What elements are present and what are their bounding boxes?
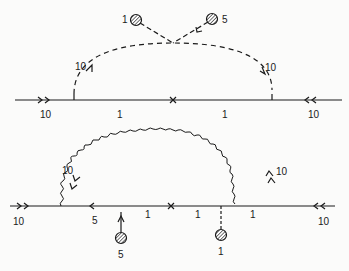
wavy-gauge-arc <box>60 128 235 206</box>
blob-5-icon <box>116 233 127 244</box>
blob-left-label: 1 <box>122 14 128 25</box>
blob-1-icon <box>131 15 142 26</box>
internal-left-label: 1 <box>117 109 123 120</box>
blob-1-icon <box>216 230 227 241</box>
internal-label-1c: 1 <box>250 209 256 220</box>
internal-right-label: 1 <box>222 109 228 120</box>
internal-label-1a: 1 <box>145 209 151 220</box>
blob-5-icon <box>207 14 218 25</box>
dashed-line-blob-5 <box>173 22 208 43</box>
dashed-line-blob-1 <box>140 23 173 43</box>
external-right-label: 10 <box>318 216 330 227</box>
external-left-label: 10 <box>13 216 25 227</box>
internal-label-5: 5 <box>92 215 98 226</box>
top-diagram <box>15 14 342 104</box>
bottom-diagram <box>10 128 335 244</box>
top-labels: 1 5 10 10 10 1 1 10 <box>40 14 320 120</box>
arc-arrow-up-left-icon <box>86 65 92 72</box>
external-left-label: 10 <box>40 109 52 120</box>
blob-right-label: 1 <box>218 246 224 257</box>
blob-left-label: 5 <box>118 249 124 260</box>
arc-arrow-up-right-icon <box>266 171 275 183</box>
dashed-scalar-arc <box>74 43 272 94</box>
internal-label-1b: 1 <box>195 209 201 220</box>
arc-right-label: 10 <box>276 166 288 177</box>
arc-right-label: 10 <box>265 62 277 73</box>
external-right-label: 10 <box>308 109 320 120</box>
arc-left-label: 10 <box>75 61 87 72</box>
arc-left-label: 10 <box>62 165 74 176</box>
arc-arrow-down-left-icon <box>70 175 80 189</box>
blob-right-label: 5 <box>222 14 228 25</box>
bottom-labels: 10 10 10 5 1 1 1 10 5 1 <box>13 165 330 260</box>
feynman-diagrams: 1 5 10 10 10 1 1 10 10 10 10 5 1 1 1 <box>0 0 349 271</box>
